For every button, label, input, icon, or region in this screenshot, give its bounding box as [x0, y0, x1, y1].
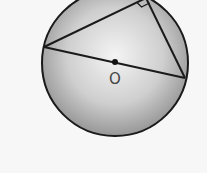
center-point: [112, 59, 118, 65]
center-label: O: [109, 70, 121, 88]
geometry-diagram: O: [0, 0, 207, 173]
circle: [42, 0, 188, 136]
